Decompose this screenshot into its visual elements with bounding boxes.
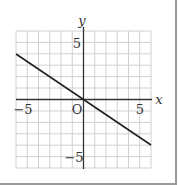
x-tick-label-neg5: −5 <box>13 102 32 117</box>
y-tick-label-pos5: 5 <box>73 36 81 51</box>
x-tick-label-pos5: 5 <box>136 102 144 117</box>
coordinate-plane: y x O −5 5 5 −5 <box>0 0 178 185</box>
x-axis-label: x <box>155 92 163 107</box>
origin-label: O <box>72 102 83 117</box>
y-axis-label: y <box>77 13 86 28</box>
y-tick-label-neg5: −5 <box>64 150 83 165</box>
